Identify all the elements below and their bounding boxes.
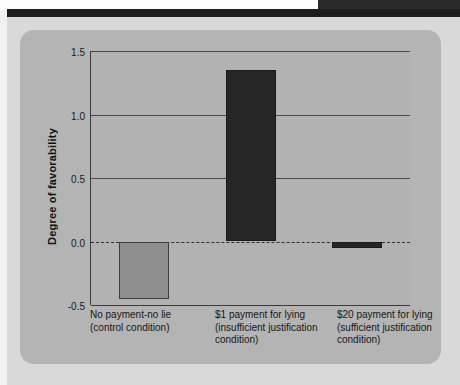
category-label-control: No payment-no lie (control condition) [90, 309, 205, 334]
y-tick-label-minus-0-5: -0.5 [68, 301, 85, 312]
bar-twenty-dollar-payment[interactable] [332, 242, 382, 248]
y-tick-label-1-0: 1.0 [71, 110, 85, 121]
x-axis-category-labels: No payment-no lie (control condition) $1… [90, 309, 420, 361]
category-label-insufficient: $1 payment for lying (insufficient justi… [215, 309, 335, 347]
y-tick-label-0-0: 0.0 [71, 237, 85, 248]
scanned-page: Degree of favorability 1.5 1.0 0.5 0.0 -… [0, 0, 460, 385]
figure-panel: Degree of favorability 1.5 1.0 0.5 0.0 -… [20, 30, 441, 364]
gridline-minus-0-5: -0.5 [91, 305, 410, 306]
y-tick-label-0-5: 0.5 [71, 174, 85, 185]
y-tick-label-1-5: 1.5 [71, 47, 85, 58]
plot-area: 1.5 1.0 0.5 0.0 -0.5 [90, 51, 410, 305]
header-corner-block [318, 0, 460, 9]
bar-no-payment-no-lie[interactable] [119, 242, 169, 299]
category-label-sufficient: $20 payment for lying (sufficient justif… [337, 309, 457, 347]
y-axis-label: Degree of favorability [46, 128, 62, 245]
bar-one-dollar-payment[interactable] [226, 70, 276, 241]
gridline-1-5: 1.5 [91, 51, 410, 52]
header-rule-band [7, 9, 460, 17]
